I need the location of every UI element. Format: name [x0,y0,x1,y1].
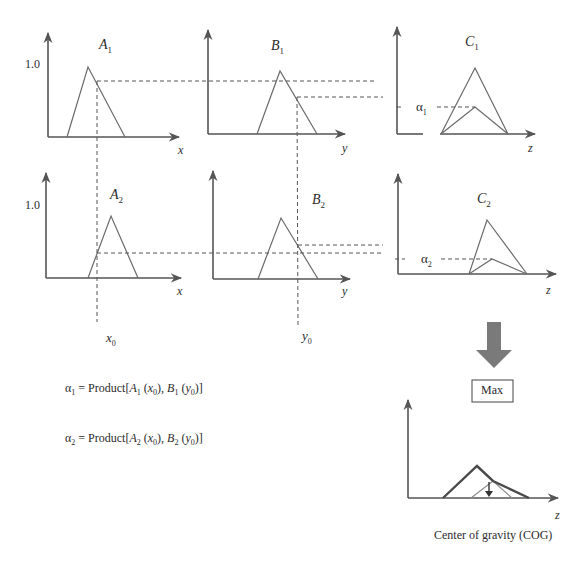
plot-c2 [395,174,556,274]
membership-function-a1 [67,67,125,137]
membership-function-b2 [258,218,318,279]
max-operator-box [472,380,513,402]
membership-function-b1 [257,71,317,134]
fuzzy-inference-diagram [0,0,584,566]
cog-arrow-head-icon [485,491,493,497]
plot-a2 [46,173,181,278]
aggregated-output-shape [443,466,529,498]
plot-aggregated-output [408,400,558,498]
membership-function-a2 [88,216,138,278]
plot-b1 [208,30,345,134]
plot-a1 [48,33,179,137]
inner-consequent-outline [471,481,512,498]
membership-function-c1 [441,68,508,134]
y0-input-line [297,97,298,327]
clipped-consequent-c1 [441,107,508,134]
plot-c1 [397,27,535,134]
membership-function-c2 [469,220,527,274]
aggregation-arrow-icon [476,322,512,368]
plot-b2 [213,171,350,279]
